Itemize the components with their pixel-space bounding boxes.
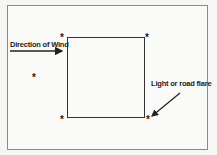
arrows-layer: [0, 0, 217, 155]
flare-pointer-arrow-icon: [152, 93, 180, 116]
